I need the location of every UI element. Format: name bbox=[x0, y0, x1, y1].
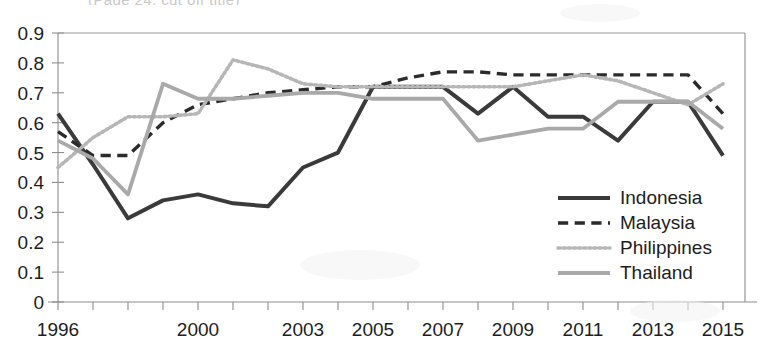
y-axis-tick-labels: 00.10.20.30.40.50.60.70.80.9 bbox=[18, 23, 45, 313]
y-tick-label: 0.3 bbox=[18, 202, 44, 223]
legend-label: Indonesia bbox=[620, 187, 703, 208]
y-tick-label: 0.5 bbox=[18, 143, 44, 164]
y-tick-label: 0.4 bbox=[18, 172, 45, 193]
x-tick-label: 2015 bbox=[702, 319, 744, 340]
x-tick-label: 1996 bbox=[37, 319, 79, 340]
clipped-chart-title: (Page 24, cut off title) bbox=[88, 0, 240, 5]
legend-item-malaysia[interactable]: Malaysia bbox=[558, 212, 695, 233]
x-tick-label: 2000 bbox=[177, 319, 219, 340]
y-tick-label: 0.2 bbox=[18, 232, 44, 253]
x-axis-tick-labels: 199620002003200520072009201120132015 bbox=[37, 319, 744, 340]
x-tick-label: 2003 bbox=[282, 319, 324, 340]
x-axis-tick-marks bbox=[58, 302, 723, 310]
x-tick-label: 2009 bbox=[492, 319, 534, 340]
x-tick-label: 2005 bbox=[352, 319, 394, 340]
legend-label: Philippines bbox=[620, 237, 712, 258]
legend-item-thailand[interactable]: Thailand bbox=[558, 262, 693, 283]
line-chart: (Page 24, cut off title) 00.10.20.30.40.… bbox=[0, 0, 771, 348]
x-tick-label: 2013 bbox=[632, 319, 674, 340]
series-line-thailand bbox=[58, 84, 723, 195]
y-tick-label: 0.9 bbox=[18, 23, 44, 44]
y-tick-label: 0 bbox=[33, 292, 44, 313]
chart-canvas: 00.10.20.30.40.50.60.70.80.9 19962000200… bbox=[0, 0, 771, 348]
legend-label: Thailand bbox=[620, 262, 693, 283]
y-tick-label: 0.6 bbox=[18, 113, 44, 134]
x-tick-label: 2007 bbox=[422, 319, 464, 340]
y-tick-label: 0.8 bbox=[18, 53, 44, 74]
legend-label: Malaysia bbox=[620, 212, 695, 233]
legend-item-indonesia[interactable]: Indonesia bbox=[558, 187, 703, 208]
x-tick-label: 2011 bbox=[563, 319, 604, 340]
chart-legend: IndonesiaMalaysiaPhilippinesThailand bbox=[558, 187, 712, 283]
legend-item-philippines[interactable]: Philippines bbox=[558, 237, 712, 258]
y-tick-label: 0.1 bbox=[18, 262, 44, 283]
y-tick-label: 0.7 bbox=[18, 83, 44, 104]
